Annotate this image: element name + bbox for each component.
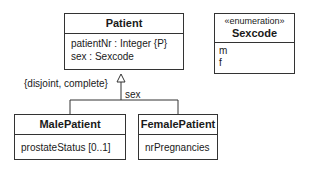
attribute: sex : Sexcode	[71, 50, 177, 63]
class-female-patient[interactable]: FemalePatient nrPregnancies	[138, 114, 218, 160]
class-name: Patient	[65, 14, 183, 34]
generalization-arrowhead-icon	[117, 74, 125, 82]
attribute-list: prostateStatus [0..1]	[15, 135, 125, 160]
class-name: MalePatient	[15, 115, 125, 135]
generalization-constraint: {disjoint, complete}	[24, 78, 108, 89]
literal-list: m f	[215, 43, 294, 71]
discriminator-label: sex	[125, 89, 141, 100]
stereotype-label: «enumeration»	[215, 16, 294, 27]
enumeration-header: «enumeration» Sexcode	[215, 14, 294, 43]
class-patient[interactable]: Patient patientNr : Integer {P} sex : Se…	[64, 13, 184, 70]
enum-literal: m	[219, 45, 290, 57]
attribute-list: nrPregnancies	[139, 135, 217, 160]
class-name: FemalePatient	[139, 115, 217, 135]
class-name: Sexcode	[232, 27, 277, 39]
enum-literal: f	[219, 57, 290, 69]
enumeration-sexcode[interactable]: «enumeration» Sexcode m f	[214, 13, 295, 74]
attribute: nrPregnancies	[145, 141, 211, 154]
attribute-list: patientNr : Integer {P} sex : Sexcode	[65, 34, 183, 66]
class-male-patient[interactable]: MalePatient prostateStatus [0..1]	[14, 114, 126, 160]
attribute: patientNr : Integer {P}	[71, 37, 177, 50]
attribute: prostateStatus [0..1]	[21, 141, 119, 154]
